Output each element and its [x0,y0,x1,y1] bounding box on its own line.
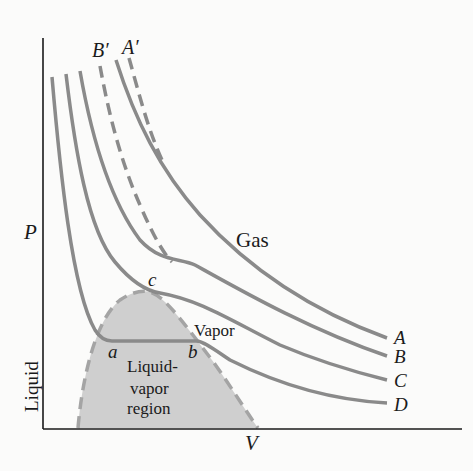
curve-label-a: A [394,328,406,347]
y-axis-label-p: P [24,222,37,243]
region-label-vapor: Vapor [194,322,235,339]
region-label-liquid-vapor-2: vapor [130,380,169,397]
point-label-c: c [148,270,156,289]
x-axis-label-v: V [245,433,258,454]
region-label-gas: Gas [236,230,269,251]
curve-label-c: C [394,371,407,390]
region-label-liquid: Liquid [22,361,41,412]
region-label-liquid-vapor-1: Liquid- [127,358,178,375]
label-a-prime: A′ [122,37,139,57]
curve-label-b: B [394,347,406,366]
point-label-a: a [108,342,118,361]
curve-label-d: D [394,395,408,414]
point-label-b: b [188,342,198,361]
region-label-liquid-vapor-3: region [127,400,170,417]
pv-diagram: B′ A′ P V Gas Vapor Liquid Liquid- vapor… [0,0,473,471]
label-b-prime: B′ [92,40,109,60]
